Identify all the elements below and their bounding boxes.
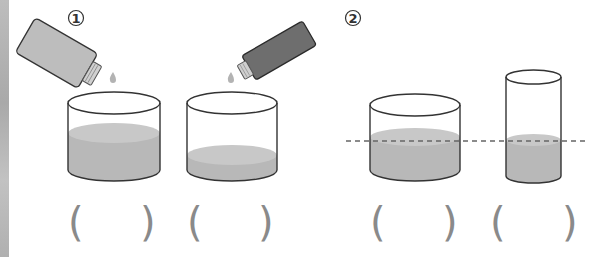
svg-text:): ) [140,199,156,245]
narrow-container [506,70,561,183]
answer-box-narrow-container[interactable]: ( ) [490,199,578,245]
container-a [68,92,160,181]
svg-text:2: 2 [348,11,357,26]
svg-text:1: 1 [71,11,80,26]
answer-box-container-a[interactable]: ( ) [68,199,156,245]
light-bottle-icon [15,18,106,94]
svg-text:(: ( [490,199,506,245]
drop-icon [110,72,116,83]
wide-container [370,94,460,181]
drop-icon [228,72,234,83]
svg-text:): ) [442,199,458,245]
panel-1-label: 1 [69,11,84,26]
answer-box-wide-container[interactable]: ( ) [370,199,458,245]
diagram-canvas: 1 2 [0,0,607,257]
container-b [187,92,277,181]
svg-text:(: ( [370,199,386,245]
svg-text:): ) [258,199,274,245]
svg-text:(: ( [187,199,203,245]
dark-bottle-icon [234,21,316,85]
panel-2-label: 2 [346,11,361,26]
svg-text:): ) [562,199,578,245]
svg-text:(: ( [68,199,84,245]
answer-box-container-b[interactable]: ( ) [187,199,274,245]
